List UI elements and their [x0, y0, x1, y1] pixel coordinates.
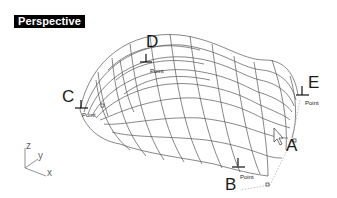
axis-y-label: y: [38, 151, 43, 161]
point-label-c: Point: [82, 112, 96, 118]
label-a: A: [286, 137, 297, 154]
label-e: E: [308, 74, 319, 91]
arrow-pointer-icon: [274, 128, 283, 145]
perspective-viewport[interactable]: Perspective D C E A B Point Point Point …: [0, 0, 337, 198]
axis-z-label: z: [26, 141, 31, 151]
point-label-b: Point: [240, 174, 254, 180]
label-b: B: [225, 176, 236, 193]
label-d: D: [146, 33, 158, 50]
label-c: C: [62, 88, 74, 105]
point-label-d: Point: [150, 68, 164, 74]
viewport-title[interactable]: Perspective: [14, 15, 85, 28]
axis-x-label: x: [47, 168, 52, 178]
point-label-e: Point: [305, 100, 319, 106]
